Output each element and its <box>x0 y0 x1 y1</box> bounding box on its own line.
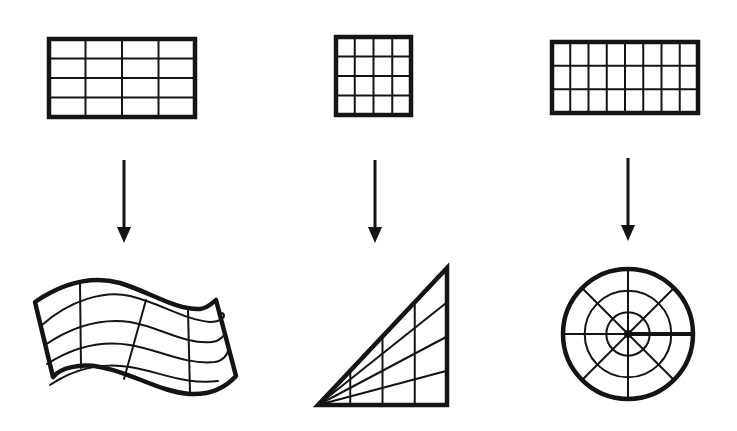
source-grid-wave <box>49 39 195 117</box>
arrows <box>117 158 635 243</box>
disk-spoke <box>628 334 674 380</box>
diagram-svg <box>0 0 737 431</box>
target-triangle-mesh <box>318 268 447 405</box>
arrow-down-icon <box>368 160 382 243</box>
disk-spoke <box>628 288 674 334</box>
target-wavy-mesh <box>35 280 236 394</box>
diagram-canvas <box>0 0 737 431</box>
arrow-down-icon <box>621 158 635 241</box>
wave-col-line <box>80 283 81 368</box>
source-grid-triangle <box>336 37 411 115</box>
disk-center-dot <box>624 330 632 338</box>
target-polar-disk <box>563 269 693 399</box>
disk-spoke <box>582 334 628 380</box>
source-grid-circle <box>552 42 698 113</box>
source-grids <box>49 37 698 117</box>
disk-spoke <box>582 288 628 334</box>
arrow-down-icon <box>117 160 131 243</box>
wave-row-line <box>47 344 228 364</box>
